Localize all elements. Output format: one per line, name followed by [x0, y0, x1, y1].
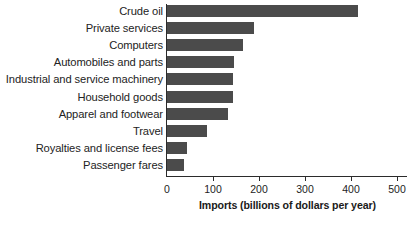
bar — [167, 142, 187, 154]
bar — [167, 108, 228, 120]
bar-category-label: Industrial and service machinery — [0, 71, 163, 87]
bar-category-label: Household goods — [0, 89, 163, 105]
bar-row: Passenger fares — [0, 159, 413, 171]
bar-row: Apparel and footwear — [0, 108, 413, 120]
bar-category-label: Passenger fares — [0, 157, 163, 173]
bar-category-label: Computers — [0, 37, 163, 53]
x-tick — [213, 176, 214, 181]
bar-row: Crude oil — [0, 5, 413, 17]
bar — [167, 159, 184, 171]
plot-area: Crude oilPrivate servicesComputersAutomo… — [0, 0, 413, 182]
x-tick-label: 100 — [193, 183, 233, 196]
x-tick — [305, 176, 306, 181]
bar-row: Household goods — [0, 91, 413, 103]
bar-category-label: Royalties and license fees — [0, 140, 163, 156]
bar — [167, 5, 358, 17]
bar-row: Computers — [0, 39, 413, 51]
bar-row: Travel — [0, 125, 413, 137]
x-tick-label: 500 — [377, 183, 413, 196]
bar-category-label: Automobiles and parts — [0, 54, 163, 70]
bar-row: Private services — [0, 22, 413, 34]
bar — [167, 91, 233, 103]
bar-row: Industrial and service machinery — [0, 73, 413, 85]
bar — [167, 125, 207, 137]
x-tick-label: 400 — [331, 183, 371, 196]
x-tick-label: 200 — [239, 183, 279, 196]
bar — [167, 22, 254, 34]
bar-category-label: Crude oil — [0, 3, 163, 19]
x-tick — [351, 176, 352, 181]
x-tick-label: 300 — [285, 183, 325, 196]
x-tick-label: 0 — [147, 183, 187, 196]
bar-row: Automobiles and parts — [0, 56, 413, 68]
bar — [167, 39, 243, 51]
bar-category-label: Travel — [0, 123, 163, 139]
bar-category-label: Private services — [0, 20, 163, 36]
x-tick — [259, 176, 260, 181]
bar — [167, 73, 233, 85]
x-tick — [397, 176, 398, 181]
bar — [167, 56, 234, 68]
x-axis-title: Imports (billions of dollars per year) — [167, 199, 408, 211]
horizontal-bar-chart: Crude oilPrivate servicesComputersAutomo… — [0, 0, 413, 227]
x-axis-line — [166, 176, 407, 177]
bar-row: Royalties and license fees — [0, 142, 413, 154]
bar-category-label: Apparel and footwear — [0, 106, 163, 122]
